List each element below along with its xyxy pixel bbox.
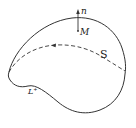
surface-label: S <box>100 48 108 61</box>
point-m <box>77 30 79 32</box>
surface-diagram: n M S L⁺ <box>0 0 136 128</box>
boundary-label: L⁺ <box>27 87 38 96</box>
direction-arrow-icon <box>51 44 56 48</box>
normal-arrow-icon <box>76 9 80 14</box>
boundary-curve <box>8 18 125 113</box>
normal-label: n <box>81 6 87 16</box>
dashed-curve <box>9 45 125 72</box>
point-label: M <box>79 27 90 37</box>
